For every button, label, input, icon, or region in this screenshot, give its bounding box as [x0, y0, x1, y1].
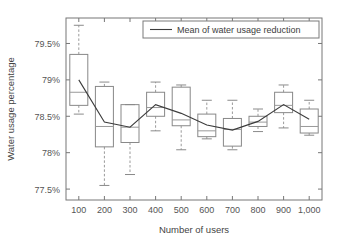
y-tick-label: 79.5% — [34, 39, 60, 49]
y-axis-title: Water usage percentage — [5, 57, 16, 161]
y-tick-label: 78.5% — [34, 112, 60, 122]
x-tick-label: 1,000 — [298, 205, 321, 215]
x-tick-label: 300 — [122, 205, 137, 215]
y-tick-label: 77.5% — [34, 185, 60, 195]
boxplot-chart: 77.5%78%78.5%79%79.5% 100200300400500600… — [0, 0, 337, 250]
x-axis-title: Number of users — [159, 224, 229, 235]
box-plot-item — [300, 100, 318, 135]
y-tick-label: 79% — [42, 75, 60, 85]
x-tick-label: 700 — [225, 205, 240, 215]
legend-entry-label: Mean of water usage reduction — [177, 25, 301, 35]
x-tick-label: 500 — [174, 205, 189, 215]
box-plot-item — [275, 85, 293, 128]
x-tick-label: 100 — [71, 205, 86, 215]
y-tick-label: 78% — [42, 148, 60, 158]
x-tick-label: 800 — [250, 205, 265, 215]
x-tick-label: 900 — [276, 205, 291, 215]
box-plot-item — [70, 25, 88, 114]
chart-canvas: 77.5%78%78.5%79%79.5% 100200300400500600… — [0, 0, 337, 250]
box-plot-item — [121, 105, 139, 175]
box-plot-item — [198, 100, 216, 139]
x-tick-label: 400 — [148, 205, 163, 215]
box-plot-series — [70, 25, 318, 185]
plot-frame — [66, 18, 322, 200]
box-plot-item — [223, 100, 241, 150]
chart-legend: Mean of water usage reduction — [143, 21, 319, 38]
box-plot-item — [172, 85, 190, 150]
box-plot-item — [95, 82, 113, 185]
y-axis-ticks: 77.5%78%78.5%79%79.5% — [34, 39, 322, 195]
box-plot-item — [249, 109, 267, 132]
x-tick-label: 600 — [199, 205, 214, 215]
x-tick-label: 200 — [97, 205, 112, 215]
